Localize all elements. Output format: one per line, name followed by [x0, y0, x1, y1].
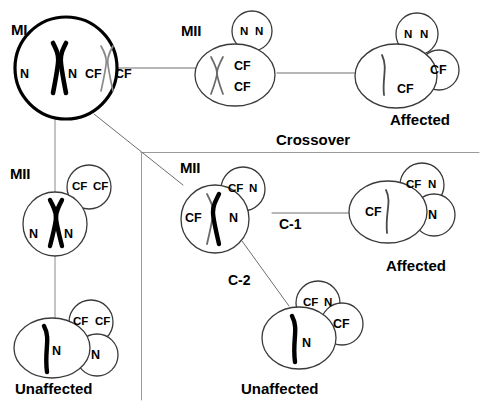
c1-polar-allele-cf: CF: [406, 179, 421, 191]
outcome-label-left-bottom: Unaffected: [15, 381, 93, 396]
phase-label-mi: MI: [11, 22, 27, 37]
outcome-label-top-right: Affected: [390, 112, 450, 127]
affected-top-polar-allele-cf: CF: [430, 64, 447, 77]
mii-top-allele-cf-2: CF: [234, 81, 251, 94]
mi-allele-cf-2: CF: [115, 68, 132, 81]
c1-polar-allele-n-2: N: [428, 209, 437, 222]
crossover-link-c1-label: C-1: [279, 217, 302, 231]
mii-top-polar-allele-n-2: N: [255, 26, 263, 38]
c1-polar-allele-n: N: [428, 179, 436, 191]
phase-label-mii-left: MII: [10, 166, 30, 181]
unaffected-left-polar-allele-n: N: [91, 349, 100, 362]
affected-top-ovum-membrane: [355, 44, 437, 108]
mi-allele-n-2: N: [68, 68, 77, 81]
mi-allele-cf-1: CF: [85, 68, 102, 81]
unaffected-left-polar-allele-cf-2: CF: [95, 316, 110, 328]
mii-left-polar-allele-cf-1: CF: [72, 181, 87, 193]
unaffected-left-polar-allele-cf-1: CF: [73, 316, 88, 328]
mii-top-allele-cf-1: CF: [234, 60, 251, 73]
mii-left-allele-n-1: N: [29, 228, 38, 241]
c2-ovum-membrane: [262, 307, 336, 369]
mii-bottom-allele-cf: CF: [185, 212, 202, 225]
outcome-label-right-middle: Affected: [386, 258, 446, 273]
affected-top-polar-allele-n-2: N: [420, 29, 428, 41]
mi-allele-n-1: N: [20, 68, 29, 81]
c2-polar-allele-cf: CF: [303, 297, 318, 309]
phase-label-mii-top: MII: [181, 23, 201, 38]
mii-top-cell-membrane: [195, 44, 275, 106]
mii-left-allele-n-2: N: [64, 228, 73, 241]
c2-polar-allele-cf-2: CF: [333, 318, 350, 331]
outcome-label-bottom-center: Unaffected: [241, 381, 319, 396]
mii-bottom-polar-allele-n: N: [249, 183, 257, 195]
c2-allele-n: N: [302, 337, 311, 350]
mii-bottom-polar-allele-cf: CF: [228, 183, 243, 195]
affected-top-polar-allele-n-1: N: [404, 29, 412, 41]
unaffected-left-allele-n: N: [52, 345, 61, 358]
crossover-divider-label: Crossover: [276, 132, 350, 147]
mii-top-polar-allele-n-1: N: [240, 26, 248, 38]
c1-allele-cf: CF: [365, 206, 382, 219]
crossover-link-c2-label: C-2: [228, 273, 251, 287]
mii-bottom-allele-n: N: [229, 212, 238, 225]
meiosis-diagram: MI MII MII MII Crossover C-1 C-2 Affecte…: [0, 0, 480, 408]
c2-polar-allele-n: N: [324, 297, 332, 309]
affected-top-allele-cf: CF: [397, 83, 414, 96]
phase-label-mii-bottom: MII: [180, 160, 200, 175]
mii-left-polar-allele-cf-2: CF: [93, 181, 108, 193]
